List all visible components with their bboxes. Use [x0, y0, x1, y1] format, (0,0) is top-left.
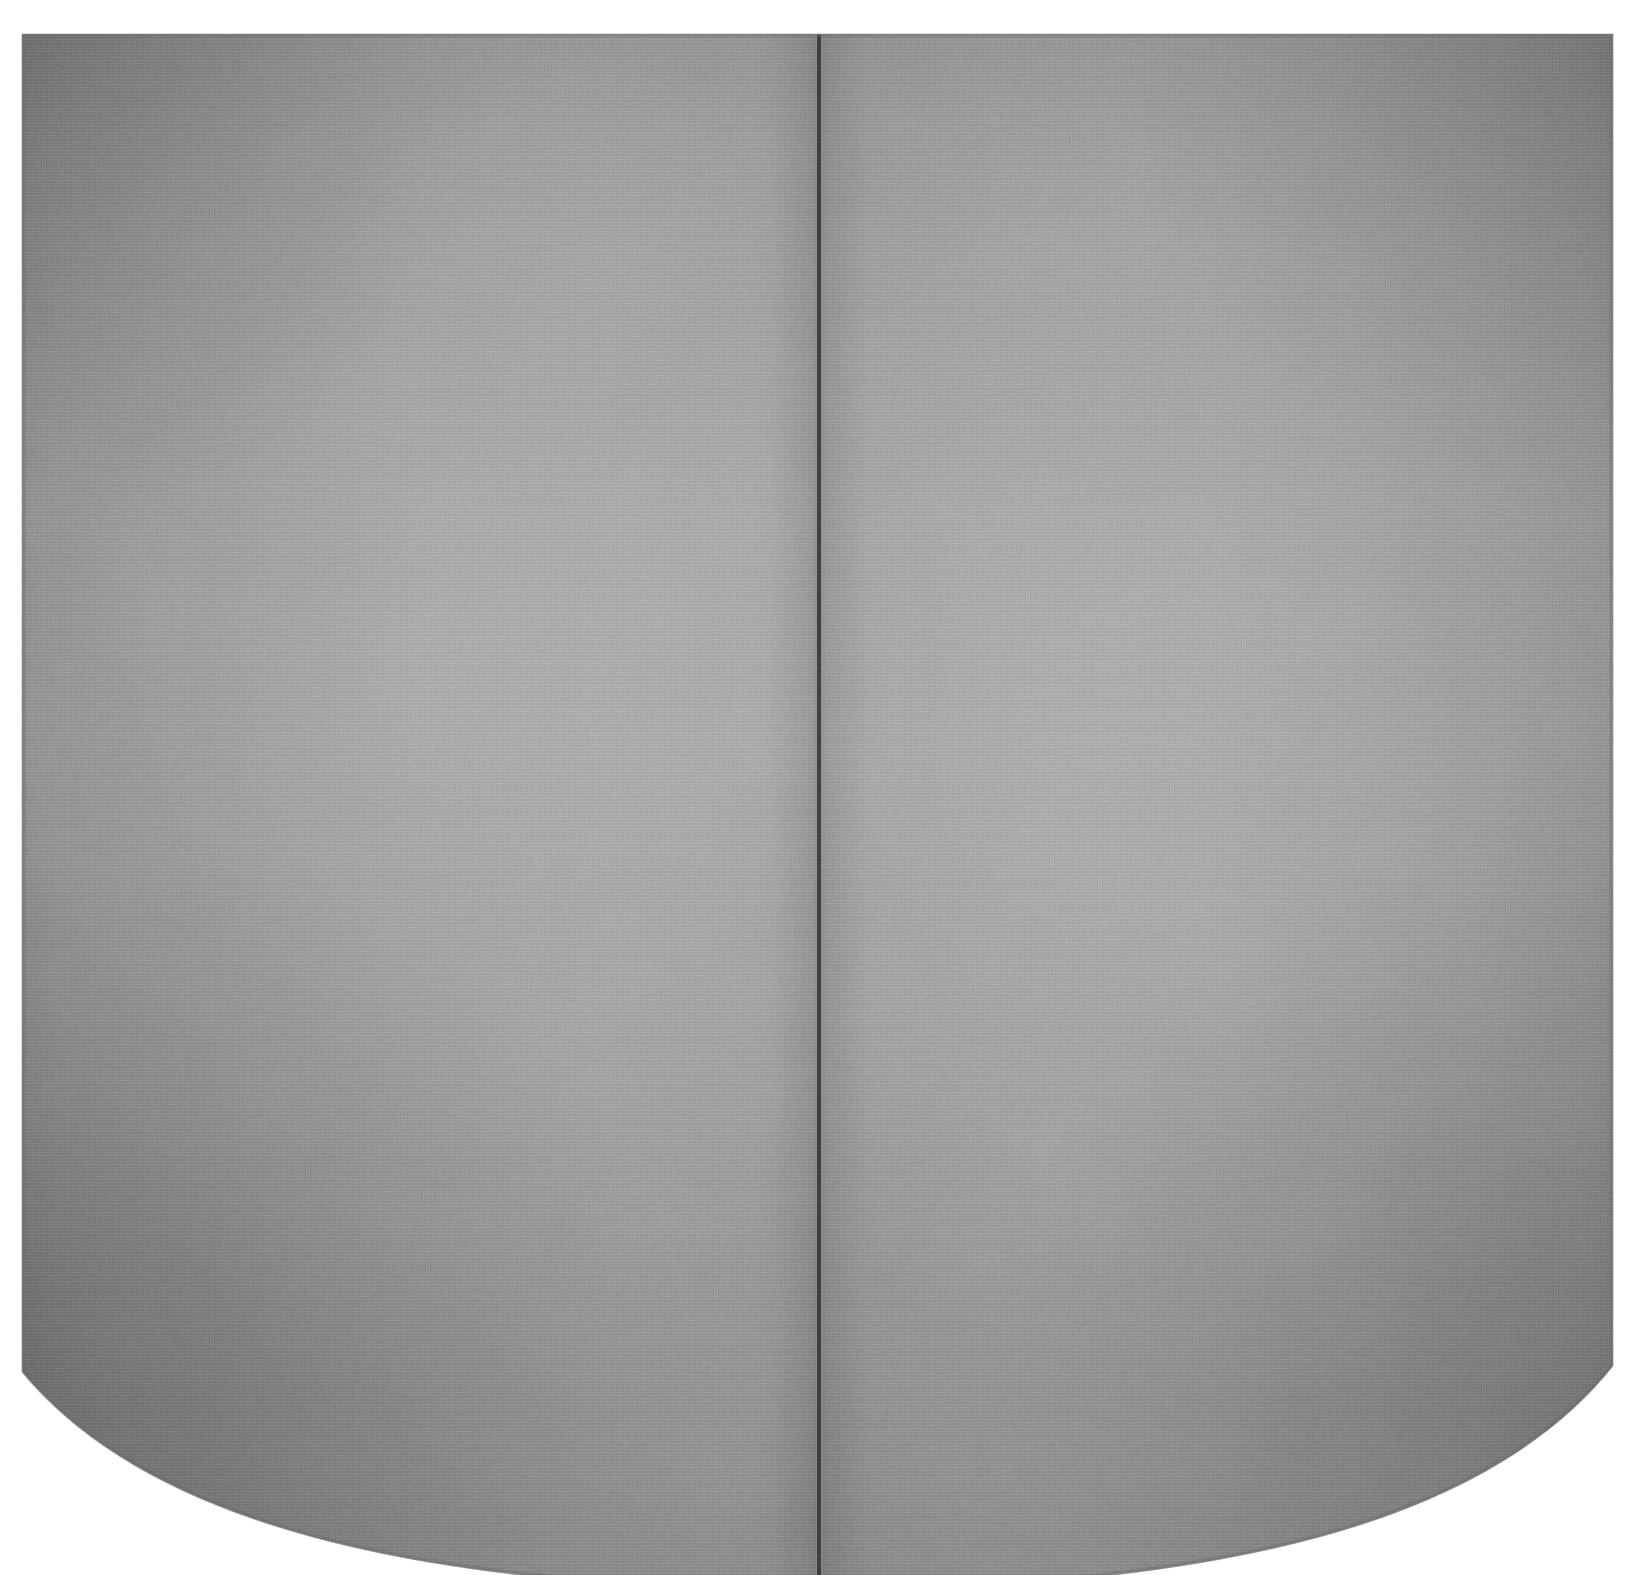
panel-seam-left-highlight — [816, 30, 817, 1575]
artwork-stage — [0, 0, 1631, 1575]
panel-seam-right-highlight — [821, 30, 822, 1575]
canvas-surface — [0, 0, 1631, 1575]
shaped-canvas-diptych — [0, 0, 1631, 1575]
panel-seam-line — [817, 30, 821, 1575]
canvas-shape-svg — [0, 0, 1631, 1575]
